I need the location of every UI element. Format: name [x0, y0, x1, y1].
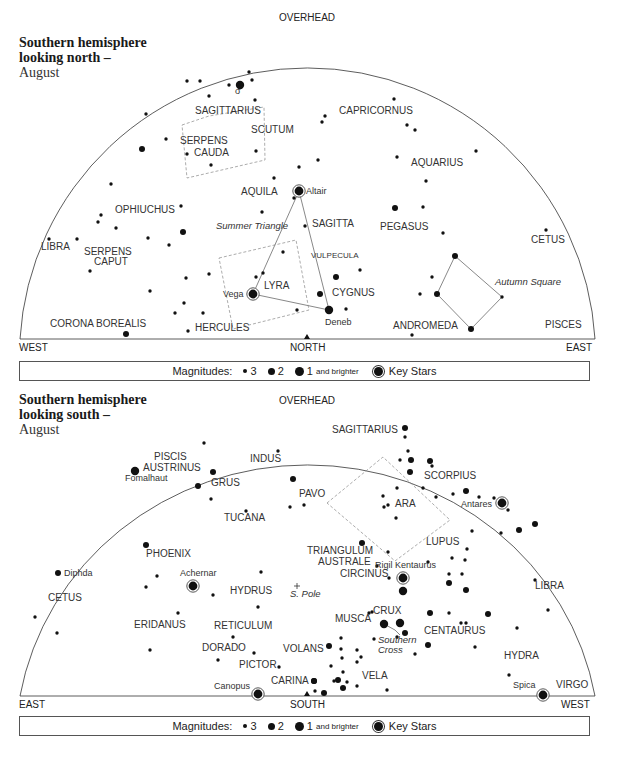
star-icon	[340, 685, 346, 691]
constellation-label: HYDRA	[504, 650, 539, 661]
star-icon	[460, 572, 463, 575]
legend-mag2: 2	[278, 720, 284, 732]
magnitude-2-star-icon	[268, 723, 275, 730]
star-icon	[398, 458, 401, 461]
star-icon	[345, 680, 348, 683]
south-magnitude-legend: Magnitudes: 3 2 1 and brighter Key Stars	[19, 716, 590, 736]
star-icon	[386, 503, 389, 506]
star-icon	[259, 570, 262, 573]
star-icon	[421, 486, 424, 489]
star-icon	[515, 626, 518, 629]
star-icon	[210, 469, 216, 475]
star-name-label: Antares	[461, 499, 493, 509]
star-icon	[413, 652, 416, 655]
constellation-label: PICTOR	[239, 659, 277, 670]
star-icon	[447, 572, 450, 575]
star-icon	[394, 516, 397, 519]
star-icon	[399, 587, 407, 595]
magnitude-3-star-icon	[243, 724, 247, 728]
star-icon	[359, 655, 362, 658]
star-icon	[355, 684, 358, 687]
star-icon	[321, 690, 327, 696]
key-star-icon	[399, 574, 408, 583]
star-icon	[434, 495, 437, 498]
south-sky-dome-arc	[20, 465, 595, 696]
constellation-label: RETICULUM	[214, 620, 272, 631]
constellation-label: SCORPIUS	[424, 470, 477, 481]
star-icon	[465, 547, 468, 550]
constellation-label: CRUX	[373, 605, 402, 616]
key-star-icon	[374, 722, 383, 731]
constellation-label: PHOENIX	[146, 548, 191, 559]
star-icon	[340, 656, 343, 659]
star-icon	[451, 492, 454, 495]
star-icon	[55, 570, 61, 576]
star-icon	[406, 449, 409, 452]
star-icon	[427, 610, 433, 616]
star-name-label: Canopus	[214, 681, 251, 691]
star-icon	[329, 664, 332, 667]
star-icon	[144, 585, 147, 588]
star-icon	[395, 486, 398, 489]
star-icon	[55, 631, 58, 634]
constellation-label: VELA	[362, 670, 388, 681]
key-star-icon	[539, 691, 548, 700]
constellation-label: SAGITTARIUS	[332, 424, 398, 435]
legend-key-stars: Key Stars	[389, 720, 437, 732]
star-icon	[326, 643, 332, 649]
legend-mag1-suffix: and brighter	[316, 722, 359, 731]
key-star-icon	[498, 499, 507, 508]
star-icon	[202, 441, 205, 444]
constellation-label: PISCIS	[154, 451, 187, 462]
star-icon	[385, 688, 388, 691]
constellation-label: INDUS	[250, 453, 281, 464]
star-icon	[33, 615, 36, 618]
star-icon	[499, 531, 502, 534]
south-direction-left: EAST	[19, 699, 45, 710]
star-icon	[463, 558, 466, 561]
star-name-label: Achernar	[180, 568, 217, 578]
star-icon	[516, 527, 522, 533]
star-icon	[463, 488, 469, 494]
constellation-label: CENTAURUS	[424, 625, 486, 636]
star-icon	[339, 636, 342, 639]
constellation-label: ERIDANUS	[134, 619, 186, 630]
star-icon	[339, 647, 342, 650]
star-icon	[209, 497, 212, 500]
star-icon	[382, 505, 385, 508]
legend-mag1: 1	[307, 720, 313, 732]
star-icon	[332, 679, 335, 682]
constellation-label: VIRGO	[556, 679, 588, 690]
star-icon	[408, 457, 414, 463]
star-icon	[446, 580, 452, 586]
star-icon	[288, 505, 291, 508]
star-icon	[473, 645, 476, 648]
south-horizon-marker-icon	[304, 691, 310, 696]
star-icon	[372, 637, 375, 640]
star-name-label: Fomalhaut	[125, 473, 168, 483]
star-icon	[447, 611, 450, 614]
star-icon	[155, 574, 158, 577]
star-icon	[425, 642, 431, 648]
magnitude-1-star-icon	[295, 722, 304, 731]
star-icon	[256, 605, 259, 608]
star-icon	[216, 658, 219, 661]
star-icon	[403, 435, 406, 438]
constellation-label: LUPUS	[426, 536, 460, 547]
constellation-label: HYDRUS	[230, 585, 273, 596]
constellation-label: CARINA	[271, 675, 309, 686]
star-icon	[427, 458, 433, 464]
star-icon	[231, 635, 234, 638]
star-icon	[430, 464, 433, 467]
star-icon	[290, 476, 296, 482]
south-direction-right: WEST	[561, 699, 590, 710]
star-icon	[492, 496, 495, 499]
star-icon	[402, 425, 408, 431]
star-icon	[507, 673, 510, 676]
constellation-label: CETUS	[48, 592, 82, 603]
star-icon	[396, 619, 404, 627]
star-icon	[355, 660, 358, 663]
star-icon	[211, 593, 214, 596]
star-icon	[463, 587, 469, 593]
asterism-label: Cross	[378, 644, 403, 655]
